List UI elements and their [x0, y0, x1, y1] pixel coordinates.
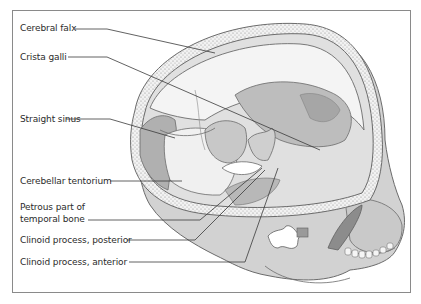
label-clinoid-anterior: Clinoid process, anterior	[20, 257, 127, 268]
label-crista-galli: Crista galli	[20, 52, 67, 63]
label-petrous-part-line1: Petrous part of	[20, 202, 85, 213]
label-clinoid-posterior: Clinoid process, posterior	[20, 235, 132, 246]
label-straight-sinus: Straight sinus	[20, 114, 81, 125]
label-petrous-part-line2: temporal bone	[20, 214, 85, 225]
label-cerebellar-tentorium: Cerebellar tentorium	[20, 176, 112, 187]
label-cerebral-falx: Cerebral falx	[20, 23, 76, 34]
